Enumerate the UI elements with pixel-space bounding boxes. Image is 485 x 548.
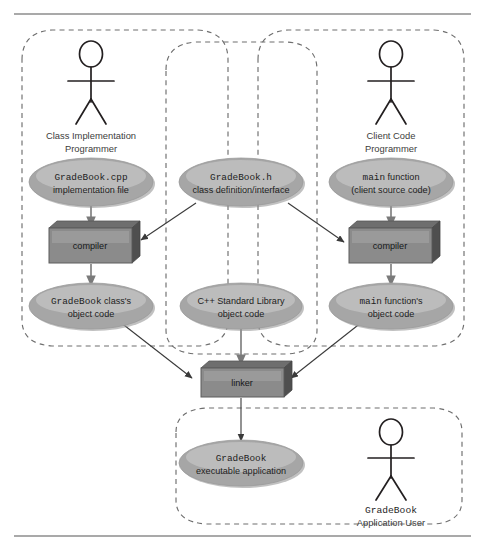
node-gradebook-h[interactable]: GradeBook.h class definition/interface	[179, 158, 305, 208]
edge-gradebookh-to-compiler-left	[141, 203, 196, 240]
node-line2: class definition/interface	[192, 185, 289, 195]
node-line1-mono: GradeBook	[51, 296, 102, 307]
linker-label: linker	[231, 378, 253, 388]
node-line2: object code	[218, 309, 265, 319]
node-line2: implementation file	[53, 185, 129, 195]
node-main-object[interactable]: main function's object code	[329, 283, 455, 331]
actor-label-line1: GradeBook	[365, 505, 417, 516]
actor-label-line1: Client Code	[367, 130, 416, 141]
node-line1-rest: class's	[102, 296, 132, 306]
node-line2: (client source code)	[351, 185, 430, 195]
edge-gradebookh-to-compiler-right	[288, 203, 344, 242]
actor-class-implementation-programmer: Class Implementation Programmer	[46, 41, 136, 154]
node-compiler-right[interactable]: compiler	[349, 221, 440, 263]
figure-container: Class Implementation Programmer Client C…	[0, 0, 485, 548]
node-main-source[interactable]: main function (client source code)	[329, 158, 455, 208]
node-line1-rest: function's	[382, 296, 423, 306]
compiler-label: compiler	[373, 241, 407, 251]
edge-gradebook-object-to-linker	[120, 322, 192, 378]
node-line1: GradeBook.h	[210, 172, 272, 183]
actor-label-line2: Programmer	[65, 143, 117, 154]
node-gradebook-cpp[interactable]: GradeBook.cpp implementation file	[29, 158, 155, 208]
actor-client-code-programmer: Client Code Programmer	[365, 41, 417, 154]
actor-label-line1: Class Implementation	[46, 130, 136, 141]
edge-main-object-to-linker	[291, 322, 362, 378]
node-line1: main function	[363, 172, 420, 183]
diagram-canvas: Class Implementation Programmer Client C…	[0, 0, 485, 548]
actor-label-line2: Application User	[357, 517, 425, 528]
node-stdlib-object[interactable]: C++ Standard Library object code	[180, 283, 304, 331]
node-line1: GradeBook	[216, 453, 267, 464]
node-line1-mono: main	[363, 172, 386, 183]
node-line1-mono: main	[359, 296, 382, 307]
compiler-label: compiler	[73, 241, 107, 251]
node-line2: executable application	[196, 466, 286, 476]
node-line2: object code	[368, 309, 415, 319]
node-gradebook-executable[interactable]: GradeBook executable application	[179, 440, 305, 488]
node-line1: main function's	[359, 296, 423, 307]
actor-gradebook-application-user: GradeBook Application User	[357, 419, 425, 528]
node-line1-rest: function	[385, 172, 419, 182]
node-line2: object code	[68, 309, 115, 319]
node-gradebook-object[interactable]: GradeBook class's object code	[29, 283, 155, 331]
node-line1: GradeBook class's	[51, 296, 132, 307]
node-line1: C++ Standard Library	[198, 296, 285, 306]
node-line1: GradeBook.cpp	[54, 172, 127, 183]
actor-label-line2: Programmer	[365, 143, 417, 154]
node-compiler-left[interactable]: compiler	[49, 221, 140, 263]
node-linker[interactable]: linker	[201, 361, 292, 397]
